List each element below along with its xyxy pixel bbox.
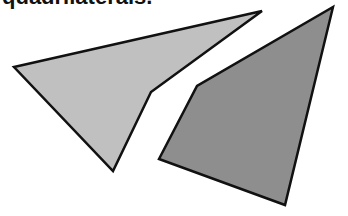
quadrilaterals-figure [0,0,348,216]
